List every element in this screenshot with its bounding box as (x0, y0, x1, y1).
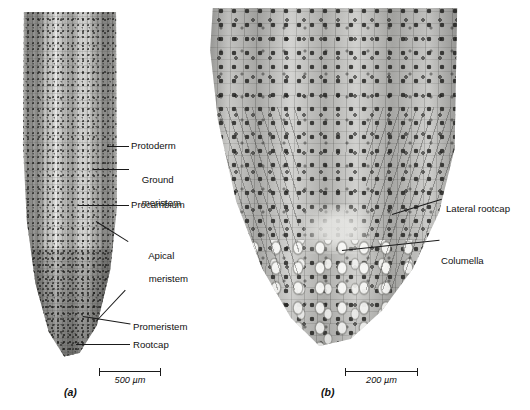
micrograph-panel-b (205, 8, 465, 360)
scalebar-a-line (99, 371, 161, 372)
label-promeristem: Promeristem (133, 321, 187, 333)
panel-b-vignette (205, 8, 465, 360)
micrograph-panel-a (22, 12, 118, 360)
label-columella: Columella (441, 255, 484, 267)
panel-b-image (205, 8, 465, 360)
figure-plate: Protoderm Ground meristem Procambium Api… (0, 0, 530, 410)
panel-a-image (22, 12, 118, 360)
label-apical-meristem-line2: meristem (149, 273, 188, 284)
label-procambium: Procambium (131, 199, 185, 211)
label-ground-meristem-line1: Ground (142, 174, 174, 185)
leader-procambium (78, 205, 129, 206)
label-rootcap: Rootcap (133, 339, 169, 351)
label-apical-meristem: Apical meristem (138, 238, 188, 296)
label-protoderm: Protoderm (131, 140, 176, 152)
panel-letter-a: (a) (64, 386, 77, 398)
panel-a-vignette (22, 12, 118, 360)
scalebar-b-line (345, 371, 418, 372)
panel-letter-b: (b) (321, 386, 334, 398)
label-apical-meristem-line1: Apical (148, 250, 174, 261)
leader-protoderm (107, 146, 129, 147)
leader-ground-meristem (93, 169, 129, 170)
scalebar-a-label: 500 µm (99, 375, 161, 385)
label-ground-meristem: Ground meristem (131, 162, 181, 220)
scalebar-b-label: 200 µm (345, 375, 418, 385)
leader-rootcap (76, 344, 130, 345)
label-lateral-rootcap: Lateral rootcap (446, 203, 510, 215)
